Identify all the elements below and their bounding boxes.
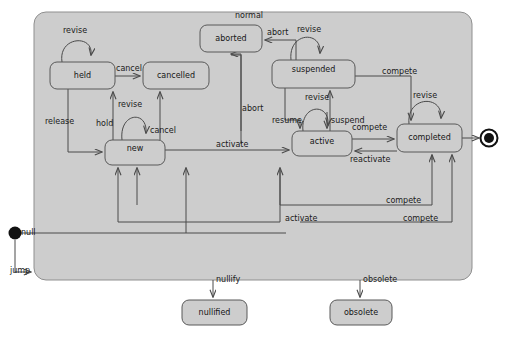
state-label-obsolete: obsolete	[330, 308, 392, 317]
transition-label-compete-lower: compete	[386, 196, 421, 205]
transition-label-release: release	[45, 117, 74, 126]
transition-label-obsolete: obsolete	[363, 275, 397, 284]
transition-label-abort-active: abort	[242, 104, 263, 113]
transition-label-completed-revise: revise	[413, 91, 437, 100]
state-label-nullified: nullified	[182, 308, 247, 317]
transition-label-new-revise: revise	[118, 100, 142, 109]
transition-label-active-revise: revise	[305, 93, 329, 102]
transition-label-compete-suspended: compete	[382, 67, 417, 76]
transition-label-activate: activate	[216, 140, 248, 149]
transition-label-compete-active: compete	[352, 123, 387, 132]
transition-label-held-revise: revise	[63, 26, 87, 35]
state-label-cancelled: cancelled	[143, 71, 209, 80]
transition-label-abort-suspended: abort	[267, 28, 288, 37]
state-label-suspended: suspended	[272, 65, 355, 74]
transition-label-null: null	[21, 228, 36, 237]
transition-label-hold: hold	[96, 119, 113, 128]
transition-label-resume: resume	[272, 116, 302, 125]
diagram-canvas	[0, 0, 508, 339]
state-label-held: held	[50, 71, 115, 80]
transition-label-held-cancelled: cancel	[116, 64, 142, 73]
initial-pseudostate	[9, 227, 22, 240]
transition-label-new-cancel: cancel	[150, 126, 176, 135]
transition-label-compete-lowest: compete	[403, 214, 438, 223]
transition-label-nullify: nullify	[216, 275, 240, 284]
transition-label-reactivate: reactivate	[350, 155, 390, 164]
state-label-active: active	[292, 137, 352, 146]
state-label-aborted: aborted	[200, 34, 262, 43]
state-label-new: new	[105, 144, 165, 153]
state-label-completed: completed	[397, 133, 462, 142]
transition-label-jump: jump	[10, 266, 30, 275]
transition-label-normal: normal	[235, 11, 263, 20]
transition-label-activate-lower: activate	[285, 214, 317, 223]
transition-label-suspended-revise: revise	[297, 25, 321, 34]
state-machine-diagram: held cancelled aborted suspended new act…	[0, 0, 508, 339]
final-state-dot	[484, 133, 494, 143]
